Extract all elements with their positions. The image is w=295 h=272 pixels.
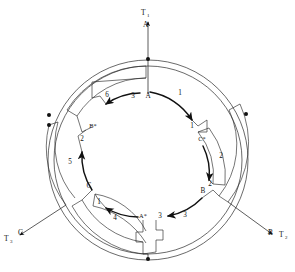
coil-arc-3-to-6 [106, 93, 140, 104]
junction-left-lower [47, 123, 51, 127]
coil-label-Astar: A* [139, 212, 147, 219]
terminal-labels: T 1 A T 2 B T 3 C [4, 8, 288, 244]
jog-3 [156, 220, 163, 240]
coil-label-2: 2 [219, 152, 223, 160]
connector-6-to-aband [92, 78, 146, 104]
coil-label-1: 1 [97, 198, 101, 206]
terminal-t2-phase: B [268, 228, 273, 237]
inner-label-group: A11C*22B33A*41C52B*63 [68, 89, 223, 222]
diagram-canvas: A11C*22B33A*41C52B*63 T 1 A T 2 B T 3 C [0, 0, 295, 272]
phase-cstar-band-end-top [198, 128, 209, 132]
phase-a-band-end-left [67, 110, 77, 116]
coil-label-C: C [87, 182, 92, 190]
phase-cstar-band-arc2 [209, 128, 225, 185]
terminal-t3-sub: 3 [10, 239, 13, 244]
coil-label-3: 3 [183, 211, 187, 219]
coil-label-1: 1 [190, 122, 194, 130]
terminal-t3-label: T [4, 234, 9, 243]
phase-c-band-end [93, 194, 95, 206]
coil-label-2: 2 [80, 135, 84, 143]
phase-a-band-inner-arc [77, 78, 146, 116]
jog-astar-down [143, 242, 148, 254]
phase-b-band-end-bottom [219, 196, 228, 202]
junction-right-upper [244, 112, 248, 116]
phase-bstar-band-outer-arc [46, 125, 66, 205]
terminal-t1-sub: 1 [147, 13, 150, 18]
terminal-lead-t3 [20, 205, 66, 235]
phase-c-outer-band [93, 194, 146, 243]
coil-arc-cstar-to-2 [203, 146, 209, 180]
coil-label-3: 3 [158, 212, 162, 220]
junction-bottom [146, 257, 150, 261]
terminal-t2-sub: 2 [285, 235, 288, 240]
coil-label-4: 4 [113, 214, 117, 222]
phase-b-band-end-top [229, 104, 240, 110]
coil-arc-a-to-1 [150, 92, 192, 120]
coil-label-A: A [145, 92, 151, 100]
coil-arc-astar-to-4 [106, 208, 138, 217]
phase-astar-band-outer-arc [72, 206, 143, 254]
coil-label-Bstar: B* [89, 122, 96, 129]
terminal-lead-t2 [228, 202, 272, 234]
phase-c-band-arc2 [93, 206, 146, 243]
terminal-t2-sub-label: T [279, 230, 284, 239]
coil-label-3: 3 [131, 92, 135, 100]
coil-label-6: 6 [105, 91, 109, 99]
junction-top [146, 57, 150, 61]
connector-c-to-band [82, 190, 92, 200]
coil-label-5: 5 [68, 158, 72, 166]
coil-label-1: 1 [178, 89, 182, 97]
winding-diagram-figure: A11C*22B33A*41C52B*63 T 1 A T 2 B T 3 C [0, 0, 295, 272]
coil-label-2: 2 [208, 180, 212, 188]
coil-label-Cstar: C* [198, 135, 205, 142]
junction-left-upper [47, 113, 51, 117]
terminal-t1-label: T [141, 8, 146, 17]
coil-label-B: B [201, 187, 206, 195]
terminal-t1-phase: A [143, 20, 149, 29]
terminal-t3-phase: C [18, 228, 23, 237]
phase-cstar-band-end-bot [213, 184, 225, 185]
phase-astar-band-end-left [72, 200, 82, 206]
connector-1-to-cstar [192, 120, 207, 132]
